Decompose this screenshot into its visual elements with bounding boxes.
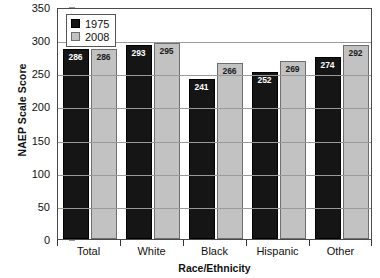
y-tick-label: 0 [18, 234, 50, 246]
y-tick-label: 100 [18, 168, 50, 180]
bar-value-label: 241 [190, 82, 214, 92]
bar-value-label: 274 [316, 60, 340, 70]
legend-swatch-icon-2008 [71, 32, 80, 41]
gridline [58, 142, 371, 143]
bar-value-label: 293 [127, 48, 151, 58]
y-tick-label: 300 [18, 35, 50, 47]
bar: 286 [63, 49, 89, 239]
legend-item-1975: 1975 [71, 17, 109, 30]
gridline [58, 175, 371, 176]
y-tick-label: 250 [18, 68, 50, 80]
bar-value-label: 286 [92, 52, 116, 62]
legend: 1975 2008 [66, 14, 116, 47]
bar: 286 [91, 49, 117, 239]
bar-chart: NAEP Scale Score 050100150200250300350 2… [0, 0, 380, 278]
bar-value-label: 252 [253, 75, 277, 85]
y-tick-label: 50 [18, 201, 50, 213]
bar: 274 [315, 57, 341, 239]
y-tick-label: 150 [18, 135, 50, 147]
y-axis-ticks: 050100150200250300350 [18, 0, 50, 278]
x-tick-label: Black [201, 245, 228, 257]
gridline [58, 208, 371, 209]
x-tick-label: White [137, 245, 165, 257]
legend-label-2008: 2008 [85, 31, 109, 43]
bar: 266 [217, 63, 243, 239]
bar: 241 [189, 79, 215, 239]
bar: 252 [252, 72, 278, 239]
gridline [58, 108, 371, 109]
legend-label-1975: 1975 [85, 18, 109, 30]
bar: 269 [280, 61, 306, 239]
gridline [58, 75, 371, 76]
y-tick-label: 350 [18, 2, 50, 14]
bar-value-label: 269 [281, 64, 305, 74]
x-axis-title: Race/Ethnicity [57, 262, 372, 274]
bar-value-label: 292 [344, 48, 368, 58]
x-axis-labels: TotalWhiteBlackHispanicOther [57, 245, 372, 261]
y-tick-label: 200 [18, 101, 50, 113]
legend-swatch-icon-1975 [71, 19, 80, 28]
x-tick-label: Total [77, 245, 100, 257]
bar-value-label: 266 [218, 66, 242, 76]
legend-item-2008: 2008 [71, 30, 109, 43]
bar-value-label: 286 [64, 52, 88, 62]
x-tick-label: Other [327, 245, 355, 257]
plot-area: 286286293295241266252269274292 1975 2008 [57, 8, 372, 240]
bar-value-label: 295 [155, 46, 179, 56]
x-tick-label: Hispanic [256, 245, 298, 257]
